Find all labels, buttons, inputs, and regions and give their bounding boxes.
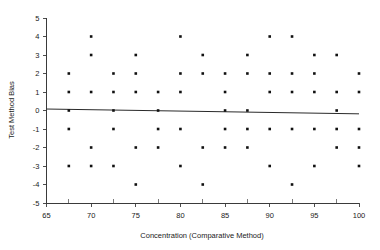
plot-area: -5-4-3-2-1012345 65707580859095100 Conce… [0, 0, 380, 250]
data-point [268, 165, 271, 168]
scatter-chart: -5-4-3-2-1012345 65707580859095100 Conce… [0, 0, 380, 250]
data-point [134, 54, 137, 57]
data-point [90, 91, 93, 94]
data-point [291, 72, 294, 75]
data-point [224, 72, 227, 75]
data-point [112, 72, 115, 75]
y-tick-label: 1 [35, 88, 39, 97]
data-point [246, 146, 249, 149]
data-point [313, 91, 316, 94]
data-point [134, 72, 137, 75]
data-point [268, 128, 271, 131]
regression-line [47, 109, 360, 114]
data-point [179, 91, 182, 94]
data-point [335, 146, 338, 149]
data-point [335, 128, 338, 131]
data-point [201, 183, 204, 186]
x-tick-label: 85 [221, 211, 229, 220]
data-point [246, 72, 249, 75]
data-point [313, 54, 316, 57]
y-axis-tick-labels: -5-4-3-2-1012345 [33, 14, 40, 208]
data-point [224, 109, 227, 112]
y-tick-label: 0 [35, 106, 39, 115]
y-tick-label: -1 [33, 125, 40, 134]
data-point [313, 165, 316, 168]
x-tick-label: 90 [266, 211, 274, 220]
data-point [68, 165, 71, 168]
data-point [68, 109, 71, 112]
data-point [224, 146, 227, 149]
data-point [112, 109, 115, 112]
data-point [68, 72, 71, 75]
x-axis-ticks [47, 203, 360, 207]
x-axis-title: Concentration (Comparative Method) [140, 231, 264, 240]
x-tick-label: 75 [132, 211, 140, 220]
data-point [358, 146, 361, 149]
x-tick-label: 80 [176, 211, 184, 220]
data-point [268, 35, 271, 38]
data-point [291, 128, 294, 131]
data-point [179, 35, 182, 38]
x-axis-minor-ticks [69, 199, 337, 203]
y-tick-label: -2 [33, 143, 40, 152]
x-tick-label: 100 [353, 211, 366, 220]
y-axis-title: Test Method Bias [7, 81, 16, 139]
y-tick-label: 5 [35, 14, 39, 23]
y-tick-label: 4 [35, 32, 39, 41]
y-tick-label: 2 [35, 69, 39, 78]
data-point [246, 109, 249, 112]
data-point [90, 146, 93, 149]
data-point [335, 91, 338, 94]
data-point [335, 109, 338, 112]
data-point [90, 165, 93, 168]
data-point [268, 91, 271, 94]
data-point [134, 183, 137, 186]
data-point [201, 54, 204, 57]
data-point [268, 72, 271, 75]
data-point [179, 165, 182, 168]
data-point [179, 128, 182, 131]
data-point [68, 128, 71, 131]
data-point [358, 128, 361, 131]
y-tick-label: 3 [35, 51, 39, 60]
data-point [224, 128, 227, 131]
data-point [157, 128, 160, 131]
data-point [68, 91, 71, 94]
data-point [201, 72, 204, 75]
data-point [291, 91, 294, 94]
data-point [157, 109, 160, 112]
data-point [246, 54, 249, 57]
data-point [134, 91, 137, 94]
data-point [358, 91, 361, 94]
data-point [313, 72, 316, 75]
data-point [90, 54, 93, 57]
x-tick-label: 95 [310, 211, 318, 220]
data-point [112, 128, 115, 131]
y-tick-label: -5 [33, 199, 40, 208]
data-point [246, 128, 249, 131]
y-tick-label: -3 [33, 162, 40, 171]
data-point [313, 128, 316, 131]
data-point [157, 146, 160, 149]
y-tick-label: -4 [33, 180, 40, 189]
x-axis-tick-labels: 65707580859095100 [42, 211, 365, 220]
data-point [134, 146, 137, 149]
data-point [335, 54, 338, 57]
x-tick-label: 70 [87, 211, 95, 220]
x-tick-label: 65 [42, 211, 50, 220]
data-point [291, 35, 294, 38]
data-point [358, 72, 361, 75]
data-point [112, 165, 115, 168]
y-axis-ticks [43, 18, 47, 203]
data-point [157, 91, 160, 94]
data-point [224, 91, 227, 94]
data-point [90, 35, 93, 38]
data-point [201, 146, 204, 149]
data-point [358, 165, 361, 168]
data-point [179, 72, 182, 75]
data-point [112, 91, 115, 94]
data-point [291, 183, 294, 186]
